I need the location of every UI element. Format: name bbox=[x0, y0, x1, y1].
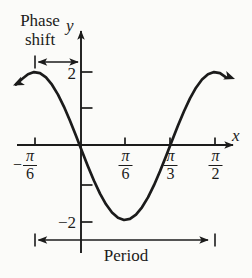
x-tick-label-neg-pi-over-6: − π 6 bbox=[13, 148, 37, 182]
period-label: Period bbox=[104, 246, 148, 265]
fraction: π 3 bbox=[164, 148, 178, 182]
fraction: π 6 bbox=[119, 148, 133, 182]
figure: Phase shift y x 2 −2 Period − π 6 π 6 π … bbox=[0, 0, 252, 278]
y-axis-label: y bbox=[66, 16, 74, 35]
fraction: π 2 bbox=[209, 148, 223, 182]
x-tick-label-pi-over-3: π 3 bbox=[163, 148, 178, 182]
x-tick-label-pi-over-6: π 6 bbox=[118, 148, 133, 182]
y-tick-label-2: 2 bbox=[56, 64, 76, 83]
y-axis-ticks bbox=[81, 72, 93, 222]
x-axis-label: x bbox=[232, 126, 240, 145]
x-tick-label-pi-over-2: π 2 bbox=[208, 148, 223, 182]
fraction: π 6 bbox=[23, 148, 37, 182]
phase-shift-label: Phase shift bbox=[20, 11, 60, 49]
y-tick-label-neg-2: −2 bbox=[44, 213, 76, 232]
minus-sign: − bbox=[13, 157, 22, 173]
